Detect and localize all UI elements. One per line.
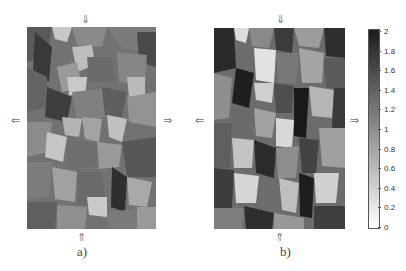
grain-map-b bbox=[214, 28, 345, 229]
colorbar-tick-mark bbox=[378, 90, 381, 91]
arrow-right-a-icon: ⇒ bbox=[163, 115, 172, 126]
arrow-down-b-icon: ⇓ bbox=[276, 14, 285, 25]
colorbar-tick-label: 0.8 bbox=[384, 144, 395, 153]
arrow-down-a-icon: ⇓ bbox=[81, 14, 90, 25]
arrow-left-a-icon: ⇐ bbox=[11, 115, 20, 126]
colorbar-tick-mark bbox=[378, 207, 381, 208]
colorbar-tick-label: 0.4 bbox=[384, 183, 395, 192]
arrow-right-b-icon: ⇒ bbox=[350, 115, 359, 126]
colorbar-tick-mark bbox=[378, 149, 381, 150]
colorbar-tick-label: 0.6 bbox=[384, 164, 395, 173]
arrow-left-b-icon: ⇐ bbox=[195, 115, 204, 126]
colorbar-tick-label: 2 bbox=[384, 27, 388, 36]
colorbar-tick-mark bbox=[378, 109, 381, 110]
colorbar-tick-label: 0 bbox=[384, 223, 388, 232]
panel-b-label: b) bbox=[280, 244, 291, 260]
colorbar-tick-mark bbox=[378, 51, 381, 52]
colorbar-tick-mark bbox=[378, 168, 381, 169]
colorbar-tick-mark bbox=[378, 227, 381, 228]
panel-b-map bbox=[214, 28, 345, 229]
grain-map-a bbox=[27, 27, 156, 229]
colorbar-tick-label: 1.4 bbox=[384, 85, 395, 94]
colorbar-tick-label: 1.6 bbox=[384, 66, 395, 75]
colorbar-tick-mark bbox=[378, 70, 381, 71]
colorbar-tick-label: 1.8 bbox=[384, 46, 395, 55]
colorbar-tick-mark bbox=[378, 188, 381, 189]
colorbar-tick-mark bbox=[378, 31, 381, 32]
panel-a-map bbox=[27, 27, 156, 229]
colorbar-tick-label: 1.2 bbox=[384, 105, 395, 114]
panel-a-label: a) bbox=[77, 244, 87, 260]
colorbar-tick-label: 0.2 bbox=[384, 203, 395, 212]
arrow-up-b-icon: ⇑ bbox=[275, 232, 284, 243]
colorbar-tick-mark bbox=[378, 129, 381, 130]
colorbar-tick-label: 1 bbox=[384, 125, 388, 134]
arrow-up-a-icon: ⇑ bbox=[77, 232, 86, 243]
